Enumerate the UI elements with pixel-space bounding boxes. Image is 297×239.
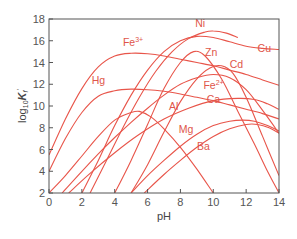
curve-label-mg: Mg [179,123,194,135]
curve-label-fe2: Fe2+ [203,79,223,91]
y-tick-label: 8 [39,122,45,134]
curve-ba [144,124,279,193]
curves-layer [49,31,279,193]
curve-label-al: Al [169,100,178,112]
curve-label-ba: Ba [197,140,210,152]
curve-label-zn: Zn [205,46,217,58]
stability-constant-chart: Fe3+HgNiCuZnCdFe2+CaAlMgBa 02468101214 2… [0,0,297,239]
x-tick-label: 12 [240,196,252,208]
curve-label-ni: Ni [195,17,205,29]
y-tick-label: 2 [39,187,45,199]
x-tick-label: 6 [145,196,151,208]
y-tick-label: 14 [33,57,45,69]
x-tick-label: 4 [112,196,118,208]
y-tick-label: 4 [39,165,45,177]
curve-label-hg: Hg [92,74,106,86]
curve-mg [131,120,279,193]
x-tick-label: 0 [46,196,52,208]
curve-label-cd: Cd [230,58,244,70]
curve-label-cu: Cu [258,42,272,54]
curve-label-fe3: Fe3+ [123,36,143,48]
y-axis-ticks: 24681012141618 [33,13,53,199]
x-axis-title: pH [157,210,171,222]
x-axis-ticks: 02468101214 [46,189,285,208]
x-tick-label: 14 [273,196,285,208]
y-axis-title: log10Kf' [15,89,29,123]
curve-fe3 [49,53,279,155]
axes-layer [49,19,279,193]
y-tick-label: 18 [33,13,45,25]
x-tick-label: 10 [207,196,219,208]
curve-label-ca: Ca [207,93,221,105]
plot-frame [49,19,279,193]
x-tick-label: 8 [177,196,183,208]
curve-zn [115,51,279,193]
x-tick-label: 2 [79,196,85,208]
y-tick-label: 10 [33,100,45,112]
y-tick-label: 6 [39,144,45,156]
curve-hg [49,89,279,171]
y-tick-label: 16 [33,35,45,47]
y-tick-label: 12 [33,78,45,90]
